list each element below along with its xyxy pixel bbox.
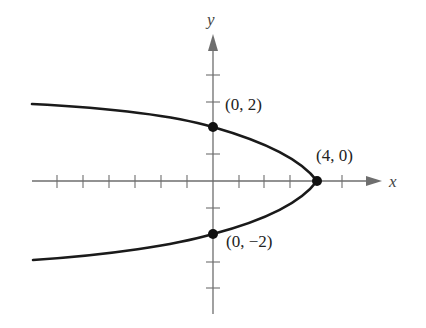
point-top — [208, 122, 218, 132]
point-vertex-label: (4, 0) — [316, 146, 353, 165]
y-axis: y — [205, 10, 220, 314]
point-vertex — [312, 176, 322, 186]
y-axis-arrow-icon — [208, 34, 218, 51]
x-axis-arrow-icon — [366, 176, 382, 186]
y-axis-label: y — [205, 10, 215, 29]
x-axis: x — [32, 172, 397, 191]
point-top-label: (0, 2) — [225, 95, 262, 114]
point-bottom-label: (0, −2) — [226, 232, 272, 251]
parabola-curve — [32, 104, 317, 260]
x-axis-label: x — [388, 172, 397, 191]
parabola-graph: x y (0, 2) (4, 0) (0, −2) — [0, 0, 426, 328]
point-bottom — [208, 229, 218, 239]
